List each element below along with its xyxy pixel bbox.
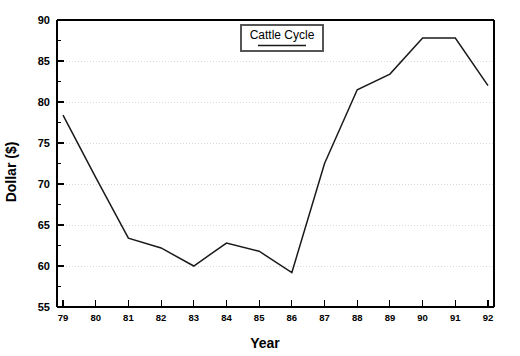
- chart-container: 5560657075808590 79808182838485868788899…: [0, 0, 520, 356]
- x-tick-label-84: 84: [221, 312, 232, 323]
- x-tick-label-87: 87: [319, 312, 330, 323]
- legend: Cattle Cycle: [241, 25, 323, 51]
- y-tick-label-85: 85: [38, 55, 50, 67]
- y-tick-label-80: 80: [38, 96, 50, 108]
- x-tick-label-88: 88: [352, 312, 363, 323]
- legend-label-cattle-cycle: Cattle Cycle: [250, 28, 315, 42]
- y-tick-label-60: 60: [38, 260, 50, 272]
- x-tick-label-82: 82: [156, 312, 167, 323]
- x-tick-label-79: 79: [58, 312, 69, 323]
- x-tick-label-86: 86: [287, 312, 298, 323]
- chart-background: [0, 0, 520, 356]
- x-tick-label-91: 91: [450, 312, 461, 323]
- x-tick-label-90: 90: [417, 312, 428, 323]
- y-axis-title: Dollar ($): [3, 142, 19, 203]
- x-tick-label-83: 83: [188, 312, 199, 323]
- y-tick-label-90: 90: [38, 14, 50, 26]
- x-tick-label-92: 92: [483, 312, 494, 323]
- y-tick-label-70: 70: [38, 178, 50, 190]
- cattle-cycle-line-chart: 5560657075808590 79808182838485868788899…: [0, 0, 520, 356]
- x-tick-label-81: 81: [123, 312, 134, 323]
- x-axis-title: Year: [250, 335, 280, 351]
- y-tick-label-55: 55: [38, 301, 50, 313]
- y-tick-label-65: 65: [38, 219, 50, 231]
- x-tick-label-85: 85: [254, 312, 265, 323]
- x-tick-label-89: 89: [385, 312, 396, 323]
- x-tick-label-80: 80: [90, 312, 101, 323]
- y-tick-label-75: 75: [38, 137, 50, 149]
